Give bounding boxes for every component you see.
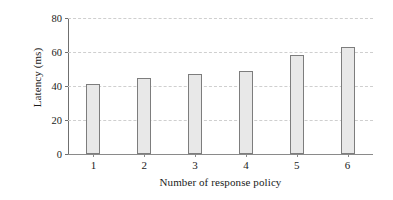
- y-axis-tick-mark: [65, 86, 68, 87]
- x-axis-tick-mark: [93, 154, 94, 157]
- x-axis-tick-label: 4: [231, 159, 261, 171]
- gridline: [68, 120, 373, 121]
- gridline: [68, 18, 373, 19]
- y-axis-tick-label: 40: [36, 81, 62, 92]
- y-axis-tick-mark: [65, 18, 68, 19]
- y-axis-tick-label: 0: [36, 149, 62, 160]
- y-axis-tick-label: 80: [36, 13, 62, 24]
- bar: [341, 47, 355, 154]
- bar: [137, 78, 151, 155]
- x-axis-tick-mark: [246, 154, 247, 157]
- x-axis-tick-label: 6: [333, 159, 363, 171]
- y-axis-tick-label: 20: [36, 115, 62, 126]
- x-axis-tick-mark: [348, 154, 349, 157]
- plot-area: 020406080 123456: [68, 18, 373, 155]
- x-axis-tick-mark: [144, 154, 145, 157]
- y-axis-tick-mark: [65, 154, 68, 155]
- bar: [188, 74, 202, 154]
- bar-chart-figure: Latency (ms) 020406080 123456 Number of …: [0, 0, 393, 200]
- x-axis-tick-mark: [195, 154, 196, 157]
- y-axis-tick-mark: [65, 120, 68, 121]
- x-axis-tick-label: 2: [129, 159, 159, 171]
- gridline: [68, 86, 373, 87]
- x-axis-tick-label: 3: [180, 159, 210, 171]
- x-axis-spine: [68, 154, 373, 155]
- x-axis-tick-label: 1: [78, 159, 108, 171]
- y-axis-tick-labels: 020406080: [36, 18, 62, 155]
- x-axis-tick-mark: [297, 154, 298, 157]
- x-axis-tick-label: 5: [282, 159, 312, 171]
- y-axis-tick-label: 60: [36, 47, 62, 58]
- bar: [86, 84, 100, 154]
- gridline: [68, 52, 373, 53]
- bar: [239, 71, 253, 154]
- y-axis-tick-mark: [65, 52, 68, 53]
- x-axis-title: Number of response policy: [68, 176, 373, 188]
- bar: [290, 55, 304, 154]
